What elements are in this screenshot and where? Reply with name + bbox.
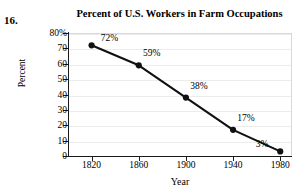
- plot-area: [68, 33, 292, 156]
- gridline: [68, 126, 291, 127]
- y-axis-line: [68, 32, 69, 157]
- chart-title: Percent of U.S. Workers in Farm Occupati…: [62, 8, 297, 19]
- y-tick-label: 10: [33, 136, 67, 146]
- data-point-label: 17%: [237, 113, 254, 123]
- y-tick-label: 50: [33, 74, 67, 84]
- x-axis-line: [67, 156, 292, 157]
- gridline: [68, 111, 291, 112]
- y-tick-label: 0: [33, 151, 67, 161]
- gridline: [68, 49, 291, 50]
- x-tick-label: 1940: [213, 160, 253, 170]
- data-point-label: 59%: [143, 48, 160, 58]
- y-tick-label: 60: [33, 59, 67, 69]
- data-point-label: 38%: [190, 81, 207, 91]
- x-tick-label: 1900: [166, 160, 206, 170]
- data-point-label: 72%: [101, 33, 118, 43]
- gridline: [68, 96, 291, 97]
- data-point-label: 3%: [256, 139, 269, 149]
- y-tick-label: 80%: [33, 28, 67, 38]
- x-tick-label: 1820: [72, 160, 112, 170]
- gridline: [68, 80, 291, 81]
- chart-page: 16. Percent of U.S. Workers in Farm Occu…: [0, 0, 299, 196]
- y-tick-label: 40: [33, 90, 67, 100]
- x-tick-label: 1860: [119, 160, 159, 170]
- x-tick-label: 1980: [260, 160, 299, 170]
- y-tick-label: 30: [33, 105, 67, 115]
- x-axis-title: Year: [68, 176, 292, 187]
- exercise-number: 16.: [4, 14, 18, 26]
- gridline: [68, 65, 291, 66]
- y-tick-label: 70: [33, 43, 67, 53]
- y-axis-title: Percent: [17, 43, 27, 103]
- y-tick-label: 20: [33, 120, 67, 130]
